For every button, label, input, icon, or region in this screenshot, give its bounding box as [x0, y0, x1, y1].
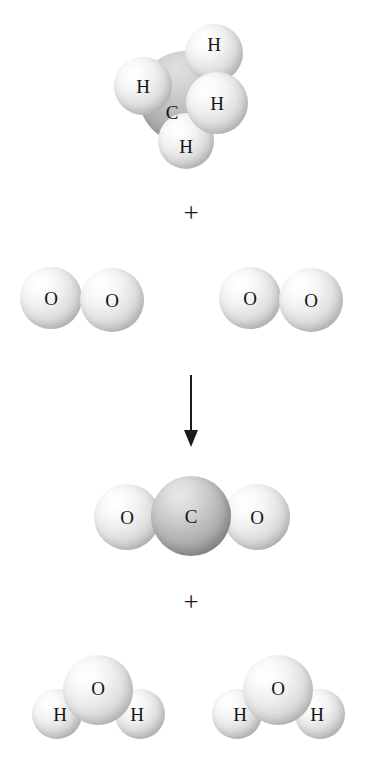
arrow-shaft [190, 375, 192, 433]
atom-label-water-1-h-1: H [117, 705, 157, 724]
atom-label-methane-h-2: H [123, 77, 163, 96]
atom-label-oxygen-1-o-0: O [31, 289, 71, 308]
atom-label-methane-h-4: H [166, 137, 206, 156]
atom-label-carbon-dioxide-c-2: C [171, 507, 211, 526]
atom-label-oxygen-1-o-1: O [92, 291, 132, 310]
atom-label-water-1-o-2: O [78, 679, 118, 698]
atom-label-water-2-o-2: O [258, 679, 298, 698]
atom-label-water-2-h-0: H [220, 705, 260, 724]
atom-label-methane-h-3: H [197, 94, 237, 113]
arrow-head-icon [184, 430, 198, 447]
atom-label-oxygen-2-o-0: O [230, 289, 270, 308]
reaction-arrow [181, 375, 201, 447]
plus-products: + [176, 589, 206, 616]
atom-label-methane-h-1: H [194, 35, 234, 54]
plus-reactants: + [176, 200, 206, 227]
atom-label-carbon-dioxide-o-1: O [237, 508, 277, 527]
reaction-diagram: CHHHHOOOOOOCHHOHHO ++ [0, 0, 371, 775]
atom-label-carbon-dioxide-o-0: O [107, 508, 147, 527]
atom-label-oxygen-2-o-1: O [291, 291, 331, 310]
atom-label-methane-c-0: C [152, 103, 192, 122]
atom-label-water-1-h-0: H [40, 705, 80, 724]
atom-label-water-2-h-1: H [297, 705, 337, 724]
